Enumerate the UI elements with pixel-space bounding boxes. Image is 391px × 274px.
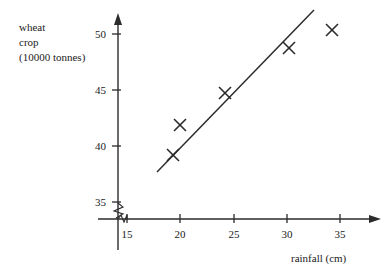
y-tick-label-50: 50: [95, 28, 107, 40]
x-tick-label-35: 35: [335, 228, 347, 240]
data-point-marker: [167, 149, 179, 161]
data-point-marker: [326, 24, 338, 36]
data-point-marker: [174, 119, 186, 131]
y-tick-label-45: 45: [95, 84, 107, 96]
x-tick-label-25: 25: [229, 228, 241, 240]
data-point-marker: [283, 42, 295, 54]
x-axis-title: rainfall (cm): [291, 252, 347, 265]
y-tick-label-35: 35: [95, 196, 107, 208]
y-tick-label-40: 40: [95, 140, 107, 152]
scatter-chart: 50 45 40 35 15 20 25 30 35: [0, 0, 391, 274]
x-tick-label-20: 20: [175, 228, 187, 240]
chart-canvas: 50 45 40 35 15 20 25 30 35: [0, 0, 391, 274]
line-of-best-fit: [157, 10, 314, 172]
y-axis-title-line-2: crop: [19, 36, 39, 48]
y-axis-title-line-3: (10000 tonnes): [19, 51, 86, 64]
data-point-marker: [219, 87, 231, 99]
y-axis-title-line-1: wheat: [19, 21, 45, 33]
y-axis-arrow-icon: [114, 13, 122, 25]
x-tick-label-30: 30: [282, 228, 294, 240]
x-axis-arrow-icon: [369, 215, 381, 223]
x-tick-label-15: 15: [122, 228, 134, 240]
